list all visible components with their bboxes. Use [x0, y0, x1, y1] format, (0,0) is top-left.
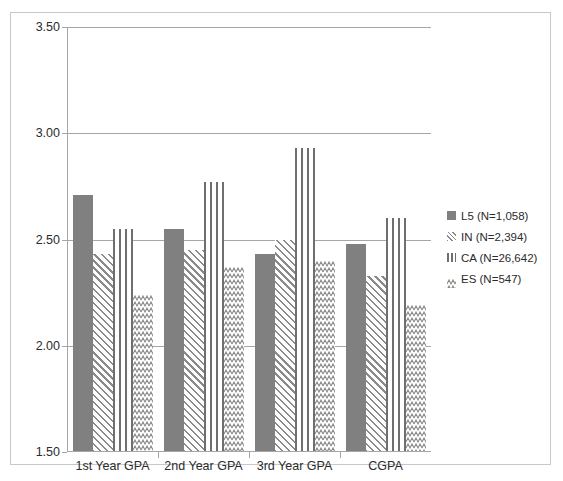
bar-group — [164, 27, 244, 452]
x-axis-label-2: 2nd Year GPA — [158, 459, 249, 473]
legend-swatch-vertical-stripes-icon — [447, 253, 456, 262]
legend-swatch-diagonal-hatch-icon — [447, 232, 456, 241]
bar-es-4[interactable] — [406, 305, 426, 452]
x-axis-label-1: 1st Year GPA — [67, 459, 158, 473]
bar-es-2[interactable] — [224, 267, 244, 452]
legend-item-label: IN (N=2,394) — [461, 231, 527, 243]
x-axis-line — [67, 451, 431, 452]
x-axis-group-separator — [249, 452, 250, 458]
bar-es-1[interactable] — [133, 295, 153, 452]
chart-legend: L5 (N=1,058)IN (N=2,394)CA (N=26,642)ES … — [447, 205, 559, 289]
x-axis-group-separator — [340, 452, 341, 458]
legend-item-in[interactable]: IN (N=2,394) — [447, 226, 559, 247]
chart-frame: 3.503.002.502.001.50 1st Year GPA2nd Yea… — [10, 12, 551, 465]
bar-in-3[interactable] — [275, 240, 295, 453]
x-axis-label-3: 3rd Year GPA — [249, 459, 340, 473]
legend-item-label: CA (N=26,642) — [461, 252, 537, 264]
bar-in-4[interactable] — [366, 276, 386, 452]
bar-group — [346, 27, 426, 452]
legend-item-label: ES (N=547) — [461, 273, 521, 285]
y-axis-tick-label: 2.50 — [36, 233, 60, 247]
bar-in-2[interactable] — [184, 250, 204, 452]
bar-l5-2[interactable] — [164, 229, 184, 452]
legend-swatch-solid-icon — [447, 211, 456, 220]
legend-item-label: L5 (N=1,058) — [461, 210, 528, 222]
y-axis-line — [67, 27, 68, 452]
plot-area: 3.503.002.502.001.50 1st Year GPA2nd Yea… — [67, 27, 431, 452]
wave-hatch-fill — [406, 305, 426, 452]
bar-l5-1[interactable] — [73, 195, 93, 452]
wave-hatch-fill — [133, 295, 153, 452]
x-axis-group-separator — [158, 452, 159, 458]
y-axis-tick-label: 3.00 — [36, 126, 60, 140]
legend-swatch-wave-hatch-icon — [447, 274, 456, 283]
y-axis-tick-label: 2.00 — [36, 339, 60, 353]
bar-l5-4[interactable] — [346, 244, 366, 452]
y-axis-tick-label: 3.50 — [36, 20, 60, 34]
legend-item-es[interactable]: ES (N=547) — [447, 268, 559, 289]
bar-ca-3[interactable] — [295, 148, 315, 452]
bar-es-3[interactable] — [315, 261, 335, 452]
legend-item-l5[interactable]: L5 (N=1,058) — [447, 205, 559, 226]
wave-hatch-fill — [224, 267, 244, 452]
bar-ca-4[interactable] — [386, 218, 406, 452]
legend-item-ca[interactable]: CA (N=26,642) — [447, 247, 559, 268]
bar-in-1[interactable] — [93, 254, 113, 452]
bar-ca-2[interactable] — [204, 182, 224, 452]
bar-group — [255, 27, 335, 452]
bar-l5-3[interactable] — [255, 254, 275, 452]
x-axis-label-4: CGPA — [340, 459, 431, 473]
y-axis-tick-mark — [62, 452, 67, 453]
bar-group — [73, 27, 153, 452]
y-axis-tick-label: 1.50 — [36, 445, 60, 459]
bar-ca-1[interactable] — [113, 229, 133, 452]
wave-hatch-fill — [315, 261, 335, 452]
